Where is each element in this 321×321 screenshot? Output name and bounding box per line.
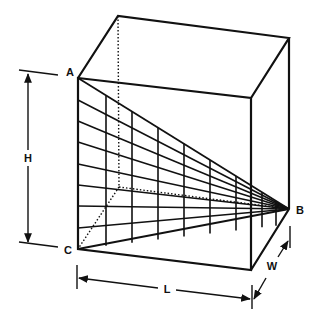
diagram-canvas (0, 0, 321, 321)
point-label-b: B (296, 205, 304, 216)
dimension-label-l: L (164, 284, 171, 295)
dimension-label-w: W (267, 261, 277, 272)
perspective-grid (78, 95, 289, 245)
dimension-label-h: H (24, 153, 32, 164)
perspective-box-diagram: A B C H L W (0, 0, 321, 321)
point-label-a: A (66, 67, 74, 78)
point-label-c: C (64, 245, 72, 256)
